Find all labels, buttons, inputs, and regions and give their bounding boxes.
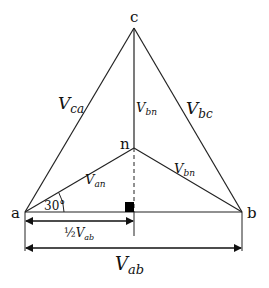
vertex-n: n	[120, 135, 130, 153]
line-ca	[25, 28, 134, 212]
angle-label: 30°	[44, 199, 65, 213]
vertex-c: c	[130, 8, 138, 26]
label-vab: Vab	[115, 253, 144, 277]
label-half-vab: ½Vab	[64, 226, 94, 242]
line-bn	[134, 148, 242, 212]
label-vbn-vertical: Vbn	[136, 100, 157, 117]
vertex-b: b	[247, 204, 257, 222]
label-vbc: Vbc	[186, 98, 213, 121]
phasor-diagram: c n a b Vca Vbc Vbn Vbn Van 30° ½Vab Vab	[0, 0, 269, 288]
line-an	[25, 148, 134, 212]
vertex-a: a	[11, 204, 20, 222]
right-angle-marker	[125, 202, 134, 212]
line-bc	[134, 28, 242, 212]
label-van: Van	[85, 172, 106, 189]
label-vca: Vca	[58, 93, 84, 116]
label-vbn-diagonal: Vbn	[174, 161, 195, 178]
